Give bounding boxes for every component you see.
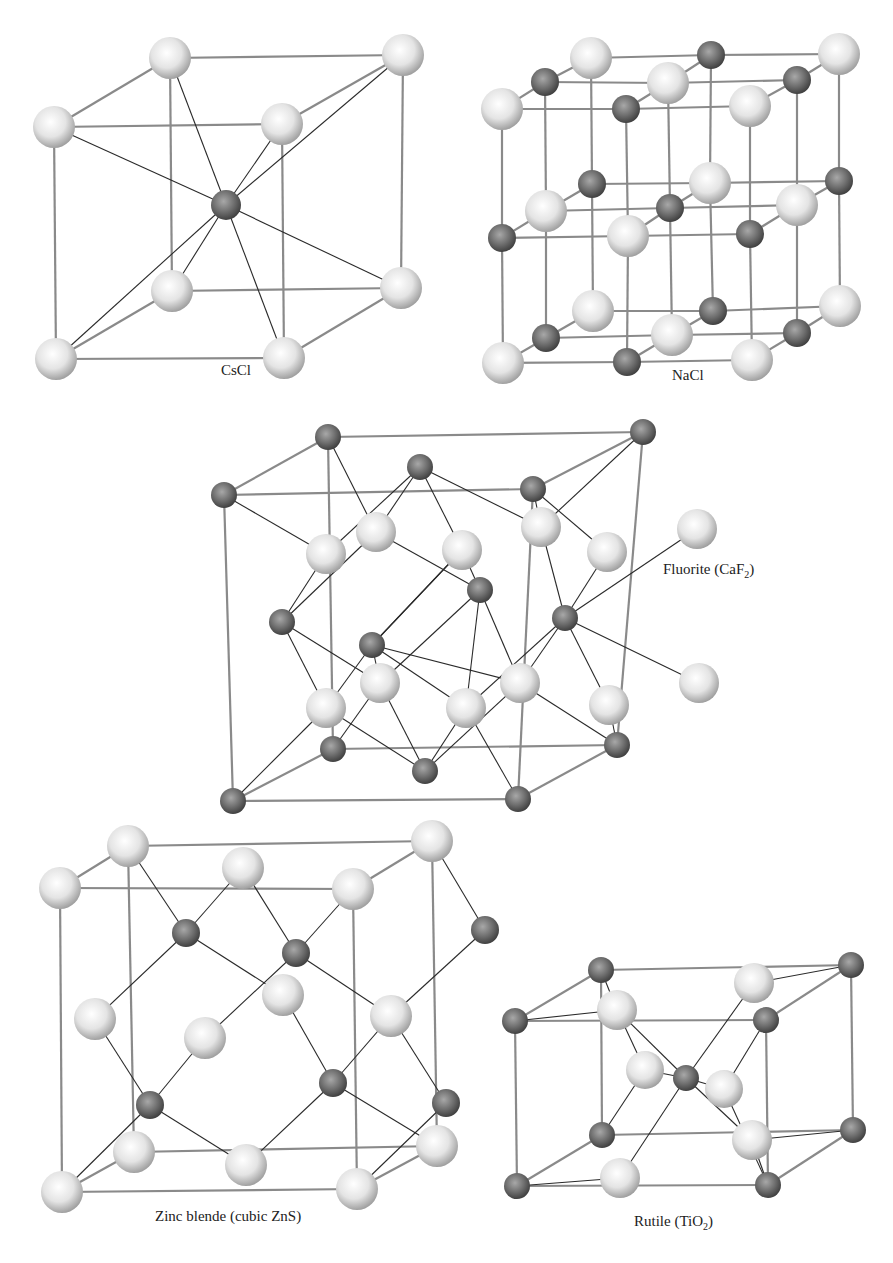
unit-cell-edge (401, 55, 403, 288)
small-atom-sphere (488, 224, 516, 252)
small-atom-sphere (656, 194, 684, 222)
large-atom-sphere (677, 509, 717, 549)
small-atom-sphere (282, 939, 310, 967)
unit-cell-edge (768, 1130, 853, 1185)
large-atom-sphere (734, 963, 774, 1003)
label-fluorite-text: Fluorite (CaF (663, 561, 744, 577)
large-atom-sphere (500, 663, 540, 703)
small-atom-sphere (578, 170, 606, 198)
large-atom-sphere (482, 342, 524, 384)
small-atom-sphere (736, 220, 764, 248)
large-atom-sphere (107, 825, 149, 867)
unit-cell-edge (224, 437, 328, 495)
large-atom-sphere (380, 267, 422, 309)
large-atom-sphere (776, 184, 818, 226)
large-atom-sphere (818, 33, 860, 75)
large-atom-sphere (651, 314, 693, 356)
large-atom-sphere (729, 85, 771, 127)
small-atom-sphere (755, 1172, 781, 1198)
unit-cell-edge (517, 1185, 768, 1186)
unit-cell-edge (601, 965, 851, 970)
small-atom-sphere (840, 1117, 866, 1143)
label-nacl: NaCl (672, 367, 704, 384)
label-zincblende: Zinc blende (cubic ZnS) (155, 1208, 301, 1225)
unit-cell-edge (54, 127, 56, 359)
unit-cell-edge (128, 846, 134, 1152)
unit-cell-edge (224, 489, 533, 495)
label-rutile-close: ) (708, 1213, 713, 1229)
unit-cell-edge (172, 288, 401, 291)
small-atom-sphere (319, 1069, 347, 1097)
large-atom-sphere (679, 663, 719, 703)
large-atom-sphere (261, 103, 303, 145)
unit-cell-edge (333, 745, 617, 749)
small-atom-sphere (471, 916, 499, 944)
unit-cell-edge (515, 1021, 517, 1186)
large-atom-sphere (587, 532, 627, 572)
unit-cell-edge (517, 1135, 602, 1186)
large-atom-sphere (446, 688, 486, 728)
large-atom-sphere (705, 1070, 743, 1108)
small-atom-sphere (825, 167, 853, 195)
unit-cell-edge (851, 965, 853, 1130)
large-atom-sphere (113, 1131, 155, 1173)
large-atom-sphere (306, 534, 346, 574)
large-atom-sphere (607, 215, 649, 257)
small-atom-sphere (838, 952, 864, 978)
bond-line (565, 618, 699, 683)
panel-nacl (481, 33, 861, 384)
unit-cell-edge (134, 1146, 437, 1152)
panel-cscl (33, 34, 424, 380)
unit-cell-edge (54, 124, 282, 127)
large-atom-sphere (589, 685, 629, 725)
large-atom-sphere (370, 995, 412, 1037)
small-atom-sphere (412, 758, 438, 784)
small-atom-sphere (588, 957, 614, 983)
small-atom-sphere (211, 190, 241, 220)
large-atom-sphere (263, 337, 305, 379)
label-cscl-text: CsCl (221, 362, 251, 378)
unit-cell-edge (515, 1020, 766, 1021)
unit-cell-edge (128, 841, 432, 846)
small-atom-sphere (211, 482, 237, 508)
bond-line (56, 205, 226, 359)
large-atom-sphere (41, 1171, 83, 1213)
small-atom-sphere (520, 476, 546, 502)
small-atom-sphere (269, 609, 295, 635)
unit-cell-edge (60, 888, 353, 889)
crystal-structures-figure (0, 0, 893, 1263)
small-atom-sphere (753, 1007, 779, 1033)
small-atom-sphere (505, 786, 531, 812)
unit-cell-edge (56, 358, 284, 359)
large-atom-sphere (731, 339, 773, 381)
bond-line (226, 55, 403, 205)
large-atom-sphere (33, 106, 75, 148)
small-atom-sphere (552, 605, 578, 631)
large-atom-sphere (382, 34, 424, 76)
small-atom-sphere (220, 788, 246, 814)
large-atom-sphere (600, 1158, 640, 1198)
bond-line (541, 432, 643, 527)
small-atom-sphere (532, 324, 560, 352)
large-atom-sphere (525, 190, 567, 232)
small-atom-sphere (432, 1089, 460, 1117)
small-atom-sphere (630, 419, 656, 445)
small-atom-sphere (589, 1122, 615, 1148)
large-atom-sphere (647, 62, 689, 104)
large-atom-sphere (597, 990, 637, 1030)
small-atom-sphere (315, 424, 341, 450)
label-nacl-text: NaCl (672, 367, 704, 383)
large-atom-sphere (149, 37, 191, 79)
unit-cell-edge (233, 749, 333, 801)
label-fluorite: Fluorite (CaF2) (663, 561, 754, 580)
unit-cell-edge (518, 745, 617, 799)
unit-cell-edge (224, 495, 233, 801)
unit-cell-edge (601, 970, 602, 1135)
unit-cell-edge (233, 799, 518, 801)
small-atom-sphere (172, 919, 200, 947)
large-atom-sphere (336, 1168, 378, 1210)
small-atom-sphere (783, 66, 811, 94)
large-atom-sphere (39, 867, 81, 909)
unit-cell-edge (766, 1020, 768, 1185)
unit-cell-edge (328, 432, 643, 437)
